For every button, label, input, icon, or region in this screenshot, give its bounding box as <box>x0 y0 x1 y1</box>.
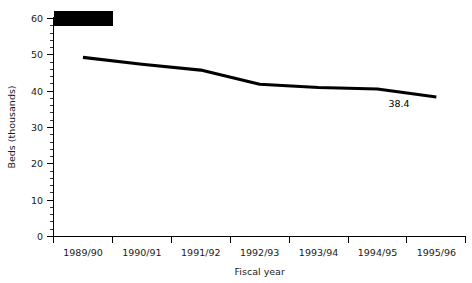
y-axis-title: Beds (thousands) <box>6 85 17 168</box>
x-tick-label-1995-96: 1995/96 <box>417 247 456 258</box>
x-tick-label-1989-90: 1989/90 <box>63 247 102 258</box>
x-axis-title: Fiscal year <box>235 266 285 277</box>
y-tick-label-20: 20 <box>31 158 43 169</box>
y-tick-label-30: 30 <box>31 122 43 133</box>
x-tick-label-1991-92: 1991/92 <box>181 247 220 258</box>
x-tick-label-1993-94: 1993/94 <box>299 247 338 258</box>
redacted-title-block <box>54 11 113 26</box>
y-tick-label-60: 60 <box>31 13 43 24</box>
y-tick-label-0: 0 <box>37 231 43 242</box>
y-tick-label-50: 50 <box>31 49 43 60</box>
chart-container: 0 10 20 30 40 50 60 Beds (thousands) 198… <box>0 0 472 283</box>
x-tick-label-1990-91: 1990/91 <box>122 247 161 258</box>
y-tick-label-40: 40 <box>31 86 43 97</box>
data-label-38-4: 38.4 <box>388 98 409 109</box>
x-tick-label-1992-93: 1992/93 <box>240 247 279 258</box>
chart-background <box>0 0 472 283</box>
y-tick-label-10: 10 <box>31 195 43 206</box>
x-tick-label-1994-95: 1994/95 <box>358 247 397 258</box>
line-chart: 0 10 20 30 40 50 60 Beds (thousands) 198… <box>0 0 472 283</box>
x-axis-tick-labels: 1989/90 1990/91 1991/92 1992/93 1993/94 … <box>63 247 456 258</box>
